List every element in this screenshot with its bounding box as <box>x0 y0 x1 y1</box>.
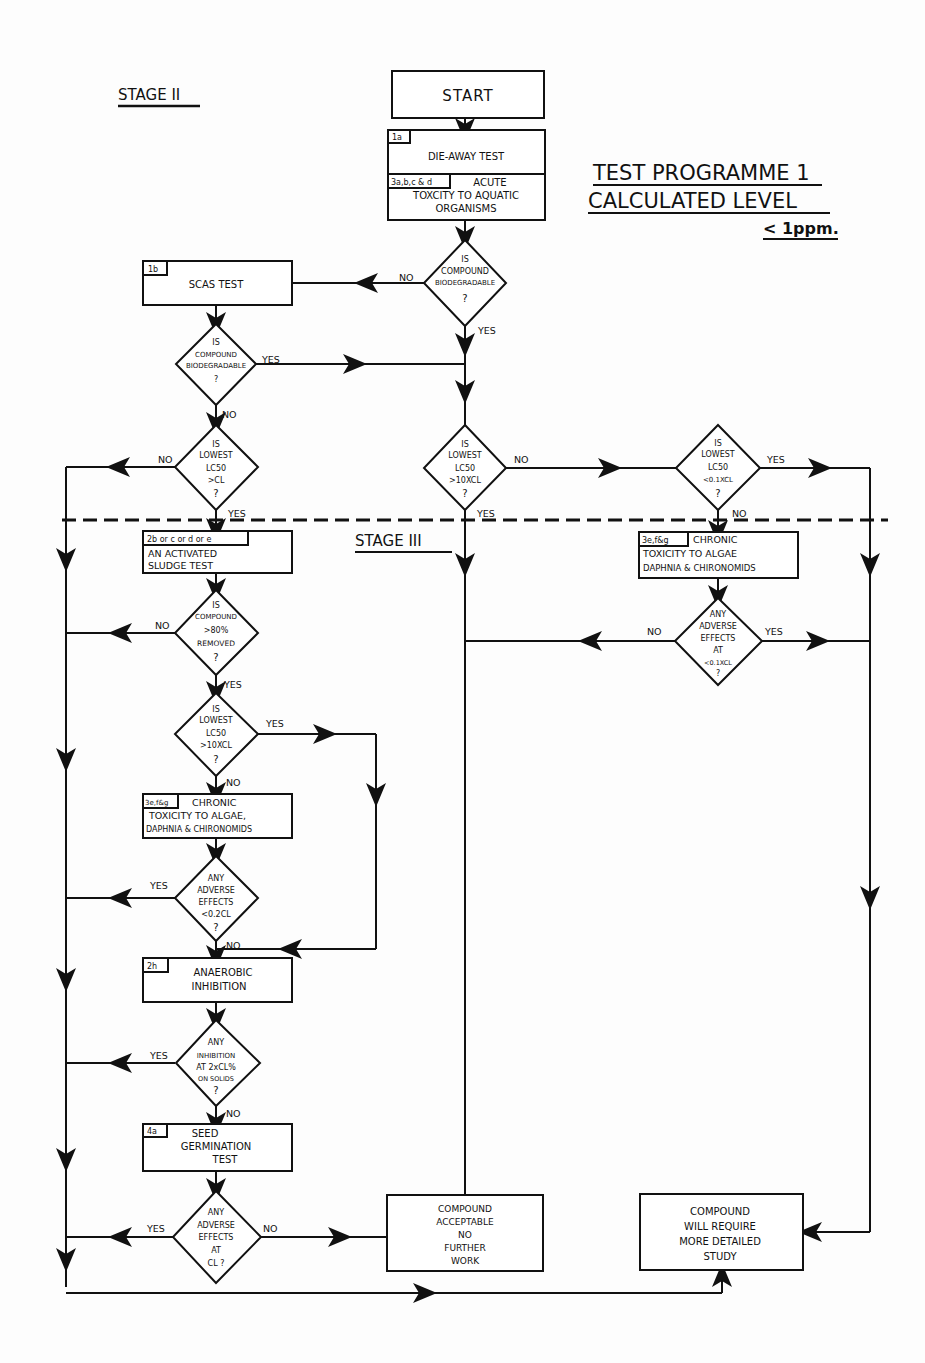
svg-text:LOWEST: LOWEST <box>199 451 233 460</box>
svg-text:>10XCL: >10XCL <box>449 476 481 485</box>
svg-text:CALCULATED LEVEL: CALCULATED LEVEL <box>588 189 797 213</box>
svg-text:IS: IS <box>212 705 219 714</box>
edge-label-yes: YES <box>146 1223 165 1234</box>
svg-text:?: ? <box>462 293 467 304</box>
edge-label-no: NO <box>399 272 414 283</box>
svg-text:2b or c or d or e: 2b or c or d or e <box>147 535 211 544</box>
svg-text:WILL REQUIRE: WILL REQUIRE <box>684 1221 756 1232</box>
edge-label-no: NO <box>158 454 173 465</box>
svg-text:<0.1XCL: <0.1XCL <box>703 476 733 484</box>
decision-adverse-effects-cl: ANY ADVERSE EFFECTS AT CL ? <box>173 1191 261 1283</box>
svg-text:ORGANISMS: ORGANISMS <box>435 203 496 214</box>
svg-text:3e,f&g: 3e,f&g <box>642 536 669 545</box>
svg-text:COMPOUND: COMPOUND <box>195 351 237 359</box>
svg-text:MORE DETAILED: MORE DETAILED <box>679 1236 761 1247</box>
svg-text:IS: IS <box>212 338 219 347</box>
edge-label-no: NO <box>222 409 237 420</box>
svg-text:3a,b,c & d: 3a,b,c & d <box>391 178 432 187</box>
svg-text:STAGE II: STAGE II <box>118 86 180 104</box>
decision-compound-biodegradable-2: IS COMPOUND BIODEGRADABLE ? <box>176 324 256 405</box>
svg-text:SLUDGE TEST: SLUDGE TEST <box>148 560 213 571</box>
start-node: START <box>392 71 544 118</box>
svg-text:IS: IS <box>714 439 721 448</box>
svg-text:INHIBITION: INHIBITION <box>197 1052 236 1060</box>
activated-sludge-test-box: 2b or c or d or e AN ACTIVATED SLUDGE TE… <box>143 531 292 573</box>
svg-text:TOXICITY TO ALGAE: TOXICITY TO ALGAE <box>642 548 737 559</box>
stage-ii-label: STAGE II <box>118 86 200 106</box>
svg-text:?: ? <box>213 652 218 663</box>
edge-label-yes: YES <box>261 354 280 365</box>
svg-text:DAPHNIA & CHIRONOMIDS: DAPHNIA & CHIRONOMIDS <box>146 825 252 834</box>
svg-text:TOXICITY TO ALGAE,: TOXICITY TO ALGAE, <box>148 810 246 821</box>
edge-label-yes: YES <box>476 508 495 519</box>
svg-text:COMPOUND: COMPOUND <box>195 613 237 621</box>
svg-text:ANY: ANY <box>710 610 726 619</box>
edge-label-yes: YES <box>766 454 785 465</box>
svg-text:?: ? <box>213 488 218 499</box>
svg-text:?: ? <box>462 488 467 499</box>
svg-text:EFFECTS: EFFECTS <box>199 1233 234 1242</box>
svg-text:TOXCITY TO AQUATIC: TOXCITY TO AQUATIC <box>412 190 519 201</box>
decision-inhibition-2xcl-solids: ANY INHIBITION AT 2xCL% ON SOLIDS ? <box>176 1020 260 1106</box>
svg-text:2h: 2h <box>147 962 157 971</box>
svg-text:AT 2xCL%: AT 2xCL% <box>196 1063 236 1072</box>
edge-label-yes: YES <box>265 718 284 729</box>
svg-text:?: ? <box>213 1085 218 1096</box>
edge-label-no: NO <box>226 777 241 788</box>
svg-text:LOWEST: LOWEST <box>199 716 233 725</box>
svg-text:BIODEGRADABLE: BIODEGRADABLE <box>186 362 246 370</box>
svg-text:?: ? <box>214 375 218 384</box>
edge-label-yes: YES <box>227 508 246 519</box>
chronic-toxicity-box-right: 3e,f&g CHRONIC TOXICITY TO ALGAE DAPHNIA… <box>639 532 798 578</box>
svg-text:FURTHER: FURTHER <box>444 1243 486 1253</box>
svg-text:4a: 4a <box>147 1127 157 1136</box>
decision-compound-biodegradable-1: IS COMPOUND BIODEGRADABLE ? <box>424 240 506 326</box>
more-detailed-study-box: COMPOUND WILL REQUIRE MORE DETAILED STUD… <box>640 1194 803 1270</box>
svg-text:COMPOUND: COMPOUND <box>441 267 489 276</box>
edge-label-no: NO <box>226 940 241 951</box>
svg-text:DIE-AWAY TEST: DIE-AWAY TEST <box>428 151 505 162</box>
edge-label-yes: YES <box>149 1050 168 1061</box>
programme-title: TEST PROGRAMME 1 CALCULATED LEVEL < 1ppm… <box>588 161 839 239</box>
die-away-test-box: 1a DIE-AWAY TEST <box>388 130 545 174</box>
acute-toxicity-box: 3a,b,c & d ACUTE TOXCITY TO AQUATIC ORGA… <box>388 174 545 220</box>
svg-text:TEST PROGRAMME 1: TEST PROGRAMME 1 <box>592 161 810 185</box>
svg-text:ADVERSE: ADVERSE <box>699 622 737 631</box>
svg-text:<0.1XCL: <0.1XCL <box>704 659 732 667</box>
svg-text:ANY: ANY <box>208 874 224 883</box>
compound-acceptable-box: COMPOUND ACCEPTABLE NO FURTHER WORK <box>387 1195 543 1271</box>
flowchart: TEST PROGRAMME 1 CALCULATED LEVEL < 1ppm… <box>0 0 925 1363</box>
svg-text:LC50: LC50 <box>455 464 475 473</box>
svg-text:ACUTE: ACUTE <box>473 177 506 188</box>
svg-text:LC50: LC50 <box>206 464 226 473</box>
svg-text:>CL: >CL <box>208 476 225 485</box>
edge-label-no: NO <box>514 454 529 465</box>
svg-text:?: ? <box>715 488 720 499</box>
svg-text:IS: IS <box>461 440 468 449</box>
svg-text:?: ? <box>716 669 720 678</box>
svg-text:SCAS TEST: SCAS TEST <box>189 279 244 290</box>
decision-lowest-lc50-gt-10xcl-left: IS LOWEST LC50 >10XCL ? <box>175 693 258 776</box>
svg-text:BIODEGRADABLE: BIODEGRADABLE <box>435 279 495 287</box>
svg-text:LC50: LC50 <box>708 463 728 472</box>
svg-text:EFFECTS: EFFECTS <box>199 898 234 907</box>
svg-text:< 1ppm.: < 1ppm. <box>763 219 839 238</box>
svg-text:IS: IS <box>212 440 219 449</box>
svg-text:>80%: >80% <box>204 626 229 635</box>
chronic-toxicity-box-left: 3e,f&g CHRONIC TOXICITY TO ALGAE, DAPHNI… <box>143 794 292 838</box>
svg-text:START: START <box>442 87 493 105</box>
svg-text:IS: IS <box>212 601 219 610</box>
svg-text:CHRONIC: CHRONIC <box>192 797 237 808</box>
seed-germination-test-box: 4a SEED GERMINATION TEST <box>143 1124 292 1171</box>
decision-compound-80pct-removed: IS COMPOUND >80% REMOVED ? <box>175 590 258 675</box>
svg-text:?: ? <box>213 922 218 933</box>
svg-text:TEST: TEST <box>212 1154 239 1165</box>
edge-label-yes: YES <box>764 626 783 637</box>
svg-text:COMPOUND: COMPOUND <box>438 1204 492 1214</box>
svg-text:REMOVED: REMOVED <box>197 639 235 648</box>
svg-text:1a: 1a <box>392 133 402 142</box>
decision-adverse-effects-01xcl: ANY ADVERSE EFFECTS AT <0.1XCL ? <box>675 598 762 685</box>
edge-label-no: NO <box>263 1223 278 1234</box>
svg-text:DAPHNIA & CHIRONOMIDS: DAPHNIA & CHIRONOMIDS <box>643 563 756 573</box>
svg-text:AN ACTIVATED: AN ACTIVATED <box>148 548 217 559</box>
